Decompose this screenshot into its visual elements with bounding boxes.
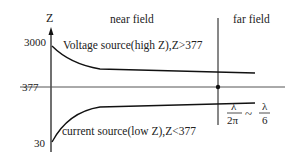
frac1-numerator: λ — [231, 100, 237, 112]
far-field-label: far field — [233, 13, 270, 25]
boundary-dot — [216, 85, 220, 89]
z-axis-label: Z — [46, 11, 53, 25]
wave-impedance-diagram: Z 3000 377 30 near field far field Volta… — [0, 0, 300, 158]
tick-3000: 3000 — [24, 36, 47, 48]
frac2-numerator: λ — [262, 100, 268, 112]
frac1-denominator: 2π — [227, 114, 239, 126]
tick-30: 30 — [34, 137, 46, 149]
current-source-label: current source(low Z),Z<377 — [62, 125, 196, 138]
tilde-symbol: ~ — [245, 106, 252, 121]
frac2-denominator: 6 — [262, 114, 268, 126]
z-axis-arrow-icon — [49, 27, 54, 35]
near-field-label: near field — [110, 13, 154, 25]
tick-377: 377 — [22, 81, 39, 93]
voltage-source-label: Voltage source(high Z),Z>377 — [63, 39, 203, 52]
